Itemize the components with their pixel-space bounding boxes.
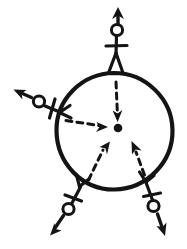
diagram-canvas: Stick figures standing on a round planet… — [0, 0, 187, 249]
gravity-arrow-bottom-right — [132, 141, 145, 175]
gravity-arrow-left — [66, 121, 108, 133]
planet-circle — [56, 73, 172, 190]
gravity-arrow-bottom-left — [89, 142, 111, 181]
gravity-arrow-top — [113, 82, 123, 122]
gravity-vectors-group — [66, 82, 145, 180]
up-arrow-left — [14, 90, 32, 100]
up-arrow-top — [112, 7, 124, 25]
planet-center-dot — [114, 124, 123, 133]
figure-bottom-left — [50, 175, 89, 236]
gravity-sphere-diagram — [0, 0, 187, 249]
up-arrow-bottom-right — [157, 214, 167, 236]
up-arrow-bottom-left — [50, 216, 64, 236]
figure-top — [106, 7, 127, 73]
